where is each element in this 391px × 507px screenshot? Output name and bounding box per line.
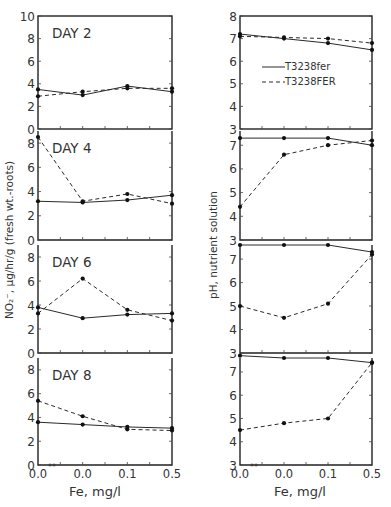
x-tick-label: 0.0 (231, 467, 249, 481)
y-tick-label: 6 (229, 276, 237, 290)
series-solid-line (240, 356, 372, 363)
data-point (170, 202, 174, 206)
data-point (326, 243, 330, 247)
data-point (81, 316, 85, 320)
data-point (282, 316, 286, 320)
data-point (125, 308, 129, 312)
data-point (36, 94, 40, 98)
x-tick-marker: ** (250, 463, 258, 472)
data-point (170, 319, 174, 323)
data-point (282, 35, 286, 39)
right-x-axis-label: Fe, mg/l (274, 484, 326, 499)
legend: T3238fer T3238FER (262, 61, 336, 87)
x-tick-label: 0.5 (363, 467, 381, 481)
data-point (36, 420, 40, 424)
data-point (238, 205, 242, 209)
series-solid-line (38, 307, 172, 318)
y-tick-label: 6 (229, 389, 237, 403)
data-point (81, 199, 85, 203)
y-tick-label: 6 (27, 161, 35, 175)
data-point (36, 399, 40, 403)
data-point (36, 199, 40, 203)
chart-panel-right-4: 345670.00.00.10.5** (229, 354, 381, 481)
data-point (36, 305, 40, 309)
panel-title: DAY 6 (52, 254, 91, 270)
data-point (370, 252, 374, 256)
y-tick-label: 8 (27, 363, 35, 377)
data-point (125, 86, 129, 90)
data-point (370, 48, 374, 52)
y-tick-label: 4 (27, 77, 35, 91)
series-solid-line (38, 86, 172, 95)
y-tick-label: 7 (229, 365, 237, 379)
y-tick-label: 4 (229, 100, 237, 114)
panel-title: DAY 8 (52, 367, 91, 383)
y-tick-label: 5 (229, 77, 237, 91)
y-tick-label: 2 (27, 209, 35, 223)
data-point (238, 354, 242, 358)
y-tick-label: 3 (229, 123, 237, 137)
data-point (282, 243, 286, 247)
x-tick-label: 0.1 (118, 467, 136, 481)
panel-frame (240, 16, 372, 129)
panel-frame (240, 131, 372, 240)
chart-panel-left-1: 0246810DAY 2 (20, 10, 174, 137)
data-point (238, 428, 242, 432)
series-dashed-line (240, 140, 372, 206)
data-point (125, 313, 129, 317)
figure-canvas: 0246810DAY 202468DAY 402468DAY 602468DAY… (0, 0, 391, 507)
y-tick-label: 4 (27, 411, 35, 425)
data-point (170, 428, 174, 432)
y-tick-label: 6 (27, 275, 35, 289)
left-y-axis-label: NO₂⁻, μg/hr/g (fresh wt.-roots) (3, 161, 15, 319)
chart-panel-right-3: 34567 (229, 243, 374, 361)
data-point (238, 34, 242, 38)
y-tick-label: 2 (27, 435, 35, 449)
chart-panel-left-3: 02468DAY 6 (27, 245, 174, 361)
y-tick-label: 8 (27, 251, 35, 265)
y-tick-label: 4 (229, 323, 237, 337)
panel-frame (240, 358, 372, 465)
x-tick-label: 0.0 (275, 467, 293, 481)
series-dashed-line (240, 254, 372, 317)
y-tick-label: 4 (229, 435, 237, 449)
data-point (170, 86, 174, 90)
data-point (81, 414, 85, 418)
data-point (238, 136, 242, 140)
chart-panel-right-1: 345678 (229, 10, 374, 137)
panel-title: DAY 4 (52, 140, 91, 156)
y-tick-label: 6 (229, 162, 237, 176)
x-tick-label: 0.0 (74, 467, 92, 481)
series-dashed-line (240, 36, 372, 43)
data-point (370, 143, 374, 147)
chart-panel-right-2: 34567 (229, 131, 374, 248)
data-point (326, 143, 330, 147)
x-tick-label: 0.0 (29, 467, 47, 481)
y-tick-label: 8 (27, 137, 35, 151)
x-tick-label: 0.1 (319, 467, 337, 481)
data-point (326, 416, 330, 420)
data-point (81, 90, 85, 94)
data-point (238, 243, 242, 247)
legend-dashed-label: T3238FER (284, 76, 336, 87)
data-point (170, 193, 174, 197)
chart-panel-left-4: 02468DAY 80.00.00.10.5** (27, 358, 181, 481)
y-tick-label: 3 (229, 234, 237, 248)
y-tick-label: 7 (229, 32, 237, 46)
x-tick-marker: ** (48, 463, 56, 472)
y-tick-label: 7 (229, 139, 237, 153)
data-point (36, 135, 40, 139)
data-point (326, 136, 330, 140)
data-point (81, 277, 85, 281)
right-y-axis-label: pH, nutrient solution (207, 191, 219, 299)
y-tick-label: 5 (229, 300, 237, 314)
data-point (125, 427, 129, 431)
y-tick-label: 5 (229, 186, 237, 200)
y-tick-label: 2 (27, 100, 35, 114)
y-tick-label: 0 (27, 347, 35, 361)
y-tick-label: 6 (229, 55, 237, 69)
y-tick-label: 3 (229, 347, 237, 361)
series-solid-line (240, 34, 372, 50)
panel-title: DAY 2 (52, 25, 91, 41)
y-tick-label: 2 (27, 323, 35, 337)
